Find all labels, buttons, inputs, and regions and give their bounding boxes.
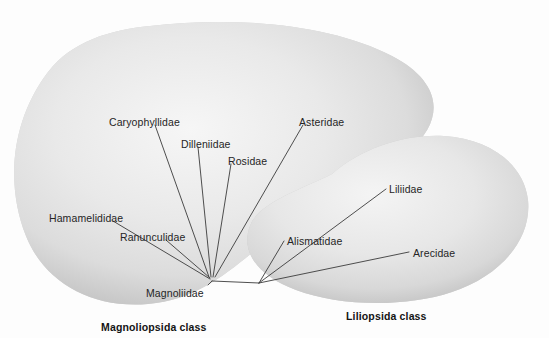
subclass-label-dilleniidae: Dilleniidae — [181, 139, 231, 150]
subclass-label-arecidae: Arecidae — [413, 248, 455, 259]
angiosperm-subclass-diagram: CaryophyllidaeDilleniidaeRosidaeAsterida… — [0, 0, 549, 338]
class-label-liliopsida: Liliopsida class — [346, 311, 427, 322]
connector-class-link — [212, 281, 259, 283]
subclass-label-asteridae: Asteridae — [299, 117, 344, 128]
subclass-label-hamamelididae: Hamamelididae — [49, 213, 123, 224]
subclass-label-caryophyllidae: Caryophyllidae — [109, 117, 180, 128]
subclass-label-liliidae: Liliidae — [389, 184, 423, 195]
subclass-label-ranunculidae: Ranunculidae — [120, 232, 185, 243]
diagram-canvas — [0, 0, 549, 338]
subclass-label-rosidae: Rosidae — [228, 156, 267, 167]
class-label-magnoliopsida: Magnoliopsida class — [101, 322, 207, 333]
subclass-label-alismatidae: Alismatidae — [287, 236, 342, 247]
subclass-label-magnoliidae: Magnoliidae — [146, 288, 204, 299]
